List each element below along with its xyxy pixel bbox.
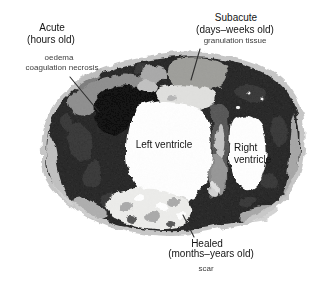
pathology-figure: Acute (hours old) oedema coagulation nec…	[0, 0, 317, 283]
healed-label-subtitle: (months–years old)	[168, 248, 254, 259]
acute-label-subtitle: (hours old)	[27, 34, 75, 45]
healed-label-scar: scar	[198, 265, 213, 274]
subacute-label-granulation-tissue: granulation tissue	[204, 37, 267, 46]
acute-label-oedema: oedema	[45, 54, 74, 63]
acute-label-title: Acute	[39, 22, 65, 33]
right-ventricle-label-line2: ventricle	[234, 154, 271, 167]
right-ventricle-label: Right ventricle	[234, 142, 271, 167]
right-ventricle-label-line1: Right	[234, 142, 271, 155]
acute-label-coagulation-necrosis: coagulation necrosis	[26, 64, 99, 73]
subacute-label-title: Subacute	[215, 12, 257, 23]
left-ventricle-label: Left ventricle	[136, 139, 193, 150]
subacute-label-subtitle: (days–weeks old)	[196, 24, 274, 35]
